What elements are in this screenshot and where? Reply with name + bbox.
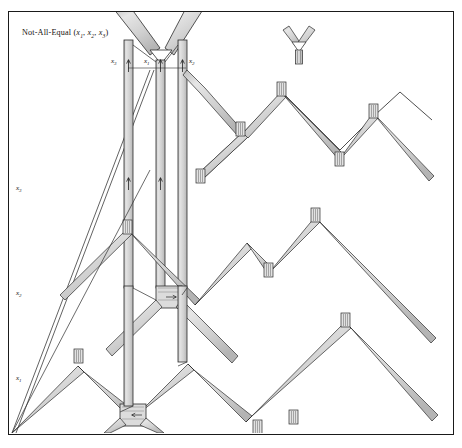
wire-label-x2-top: x2 — [189, 57, 195, 66]
title-prefix: Not-All-Equal — [22, 28, 71, 37]
wire-label-x1-top: x1 — [144, 57, 150, 66]
zigzag-wire-chain-3 — [12, 322, 438, 433]
wire-label-x1-left: x1 — [16, 374, 22, 383]
zigzag-chain-1-ribbon — [183, 70, 434, 181]
figure-canvas: Not-All-Equal (x1, x2, x3) x3 x1 x2 x3 x… — [0, 0, 462, 448]
clamp-marker-group-2 — [123, 208, 320, 277]
bottom-y-junction — [104, 404, 164, 433]
zigzag-wire-chain-2 — [60, 217, 436, 343]
not-all-equal-gadget — [113, 8, 204, 288]
wire-label-x3-left: x3 — [16, 184, 22, 193]
wire-label-x2-left: x2 — [16, 289, 22, 298]
diagram-layer — [0, 0, 462, 448]
y-junction — [283, 26, 315, 64]
wire-label-x3-top: x3 — [111, 57, 117, 66]
page-title: Not-All-Equal (x1, x2, x3) — [22, 28, 108, 39]
